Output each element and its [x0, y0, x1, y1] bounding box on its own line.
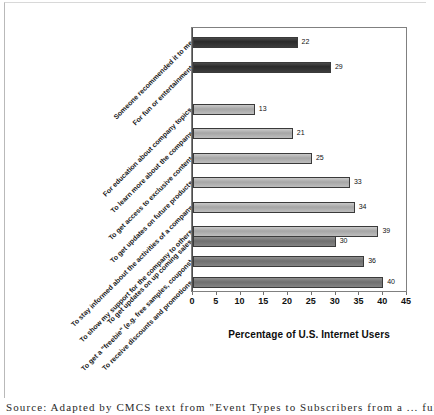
bar-value-label: 40 — [387, 276, 395, 288]
scanned-page-frame: Someone recommended it to meFor fun or e… — [4, 2, 426, 398]
category-label: To show my support for the company to ot… — [78, 228, 193, 343]
bar — [193, 236, 336, 247]
value-axis-tick-label: 20 — [282, 296, 292, 306]
bar-value-label: 33 — [354, 176, 362, 188]
category-axis-tick — [189, 241, 192, 242]
category-axis-tick — [189, 261, 192, 262]
value-axis-tick-label: 5 — [213, 296, 218, 306]
bar-value-label: 22 — [302, 36, 310, 48]
category-axis-tick — [189, 133, 192, 134]
category-axis-tick — [189, 182, 192, 183]
value-axis: 051015202530354045 — [191, 292, 407, 308]
bar — [193, 256, 364, 267]
value-axis-tick — [311, 292, 312, 295]
category-axis-tick — [189, 282, 192, 283]
category-axis-tick — [189, 42, 192, 43]
bar — [193, 104, 255, 115]
bar-value-label: 30 — [340, 235, 348, 247]
category-axis-tick — [189, 207, 192, 208]
plot-area: 2229132125333439303640 — [191, 27, 407, 292]
value-axis-tick-label: 0 — [189, 296, 194, 306]
value-axis-tick — [406, 292, 407, 295]
value-axis-tick-label: 30 — [330, 296, 340, 306]
bar — [193, 202, 355, 213]
chart-figure: Someone recommended it to meFor fun or e… — [15, 9, 425, 395]
bar — [193, 128, 293, 139]
plot-inner: 2229132125333439303640 — [192, 28, 406, 291]
value-axis-tick-label: 35 — [353, 296, 363, 306]
value-axis-tick-label: 10 — [235, 296, 245, 306]
bar-value-label: 34 — [359, 201, 367, 213]
category-label: To receive discounts and promotions — [101, 279, 194, 372]
category-axis-tick — [189, 67, 192, 68]
bar — [193, 277, 383, 288]
category-axis-tick — [189, 231, 192, 232]
value-axis-tick — [335, 292, 336, 295]
category-label: To stay informed about the activities of… — [70, 204, 194, 328]
bar — [193, 177, 350, 188]
value-axis-tick — [192, 292, 193, 295]
x-axis-title: Percentage of U.S. Internet Users — [191, 329, 427, 340]
figure-caption: Source: Adapted by CMCS text from "Event… — [6, 401, 434, 415]
category-axis-tick — [189, 158, 192, 159]
value-axis-tick — [216, 292, 217, 295]
category-axis-labels: Someone recommended it to meFor fun or e… — [15, 9, 191, 309]
value-axis-tick — [358, 292, 359, 295]
bar-value-label: 39 — [382, 225, 390, 237]
value-axis-tick — [382, 292, 383, 295]
bar — [193, 62, 331, 73]
value-axis-tick-label: 25 — [306, 296, 316, 306]
value-axis-tick — [287, 292, 288, 295]
value-axis-tick-label: 45 — [401, 296, 411, 306]
category-axis-tick — [189, 109, 192, 110]
value-axis-tick — [263, 292, 264, 295]
bar — [193, 153, 312, 164]
bar — [193, 37, 298, 48]
value-axis-tick — [240, 292, 241, 295]
bar-value-label: 29 — [335, 61, 343, 73]
value-axis-tick-label: 15 — [258, 296, 268, 306]
bar-value-label: 21 — [297, 127, 305, 139]
bar-value-label: 25 — [316, 152, 324, 164]
category-label: To get a "freebie" (e.g. free samples, c… — [79, 258, 193, 372]
value-axis-tick-label: 40 — [377, 296, 387, 306]
bar-value-label: 36 — [368, 255, 376, 267]
bar-value-label: 13 — [259, 103, 267, 115]
